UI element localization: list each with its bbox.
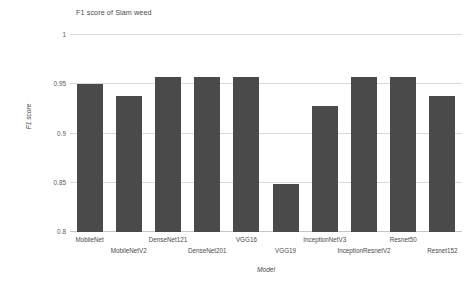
x-axis-tick-label: Resnet152	[427, 247, 457, 254]
y-axis-tick-label: 0.9	[57, 129, 66, 136]
x-axis-tick-label: VGG16	[236, 236, 257, 243]
x-axis-tick-labels: MobileNetMobileNetV2DenseNet121DenseNet2…	[70, 234, 462, 262]
x-axis-title: Model	[70, 266, 462, 273]
bar	[155, 77, 181, 232]
bar	[312, 106, 338, 232]
y-axis-tick-label: 0.85	[54, 178, 66, 185]
bar	[273, 184, 299, 232]
x-axis-tick-label: MobileNet	[75, 236, 103, 243]
bar	[116, 96, 142, 232]
x-axis-tick-label: DenseNet201	[188, 247, 227, 254]
bars-group	[70, 35, 462, 232]
y-axis-tick-label: 1	[62, 31, 66, 38]
bar	[390, 77, 416, 232]
x-axis-tick-label: Resnet50	[390, 236, 417, 243]
y-axis-tick-label: 0.95	[54, 80, 66, 87]
plot-area: 0.80.850.90.951	[70, 35, 462, 232]
x-axis-tick-label: InceptionNetV3	[303, 236, 346, 243]
y-axis-tick-label: 0.8	[57, 228, 66, 235]
x-axis-tick-label: InceptionResnetV2	[337, 247, 390, 254]
bar-chart: F1 score of Siam weed F1 score 0.80.850.…	[0, 0, 472, 286]
bar	[77, 84, 103, 232]
y-axis-title: F1 score	[25, 87, 32, 147]
x-axis-tick-label: DenseNet121	[149, 236, 188, 243]
bar	[194, 77, 220, 232]
chart-title: F1 score of Siam weed	[76, 8, 152, 17]
bar	[429, 96, 455, 232]
x-axis-tick-label: VGG19	[275, 247, 296, 254]
bar	[233, 77, 259, 232]
bar	[351, 77, 377, 232]
x-axis-tick-label: MobileNetV2	[111, 247, 147, 254]
